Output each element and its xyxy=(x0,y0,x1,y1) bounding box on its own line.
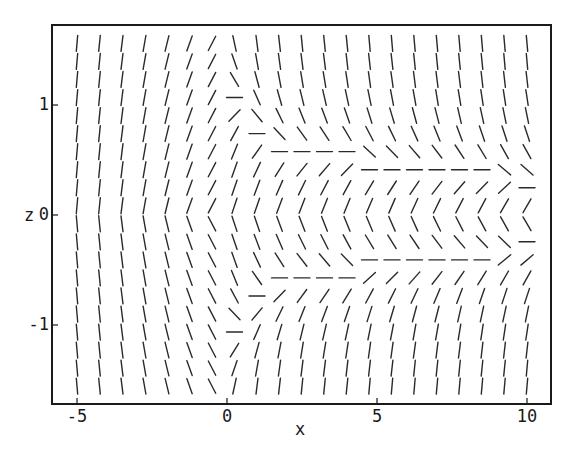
director-segment xyxy=(410,235,419,248)
director-segment xyxy=(391,378,392,394)
director-segment xyxy=(143,108,146,124)
director-segment xyxy=(187,144,192,159)
director-segment xyxy=(481,378,482,394)
director-segment xyxy=(479,126,484,141)
director-segment xyxy=(121,54,123,70)
director-segment xyxy=(121,324,123,340)
x-tick-label: 5 xyxy=(372,408,382,425)
director-segment xyxy=(322,108,328,123)
director-segment xyxy=(208,253,215,267)
director-segment xyxy=(165,162,169,178)
director-segment xyxy=(525,108,528,124)
director-segment xyxy=(343,181,351,195)
director-segment xyxy=(523,271,531,285)
director-segment xyxy=(523,145,531,159)
director-segment xyxy=(255,342,259,357)
director-segment xyxy=(341,164,352,175)
director-segment xyxy=(526,342,528,358)
director-segment xyxy=(187,54,192,69)
director-segment xyxy=(345,324,348,340)
director-segment xyxy=(143,324,146,340)
director-segment xyxy=(364,273,376,284)
director-segment xyxy=(498,165,510,175)
director-segment xyxy=(254,253,261,268)
director-segment xyxy=(165,342,169,358)
director-segment xyxy=(143,36,146,52)
director-segment xyxy=(319,254,329,266)
director-segment xyxy=(503,108,506,124)
director-segment xyxy=(99,360,101,376)
director-segment xyxy=(436,35,437,51)
director-segments xyxy=(76,35,535,394)
director-segment xyxy=(232,361,237,376)
director-segment xyxy=(391,360,393,376)
director-segment xyxy=(208,199,215,213)
director-segment xyxy=(502,126,507,141)
director-segment xyxy=(504,342,506,358)
director-segment xyxy=(99,35,101,51)
director-segment xyxy=(255,72,259,87)
director-segment xyxy=(277,198,283,213)
y-tick-label: 0 xyxy=(39,206,49,223)
director-segment xyxy=(232,180,237,195)
director-segment xyxy=(99,162,101,178)
director-segment xyxy=(346,72,348,88)
director-segment xyxy=(76,360,77,376)
director-segment xyxy=(165,216,169,232)
director-segment xyxy=(434,126,440,141)
director-segment xyxy=(389,126,396,140)
director-segment xyxy=(455,271,464,284)
director-segment xyxy=(346,378,348,394)
director-segment xyxy=(165,90,169,106)
director-segment xyxy=(458,108,462,124)
director-segment xyxy=(76,144,77,160)
director-segment xyxy=(391,90,394,106)
director-segment xyxy=(187,180,192,195)
director-segment xyxy=(321,235,328,249)
director-segment xyxy=(254,90,260,105)
director-segment xyxy=(521,164,533,175)
director-segment xyxy=(76,270,77,286)
director-segment xyxy=(165,144,169,160)
director-segment xyxy=(121,342,123,358)
director-segment xyxy=(256,54,259,70)
director-segment xyxy=(143,72,146,88)
director-segment xyxy=(478,271,486,285)
director-segment xyxy=(297,127,306,140)
director-segment xyxy=(343,127,351,141)
director-segment xyxy=(256,378,258,394)
director-segment xyxy=(389,198,395,213)
director-segment xyxy=(143,234,146,250)
director-segment xyxy=(504,72,506,88)
director-segment xyxy=(503,90,505,106)
director-segment xyxy=(187,343,192,358)
director-segment xyxy=(121,126,123,142)
director-segment xyxy=(391,72,393,88)
director-segment xyxy=(457,126,463,141)
director-segment xyxy=(165,270,169,286)
director-segment xyxy=(187,379,192,394)
x-tick-label: 0 xyxy=(222,408,232,425)
director-segment xyxy=(143,126,146,142)
director-segment xyxy=(301,360,303,376)
director-segment xyxy=(323,324,327,340)
director-segment xyxy=(502,288,507,303)
director-segment xyxy=(99,126,101,142)
director-segment xyxy=(143,162,146,178)
director-segment xyxy=(521,255,533,265)
director-segment xyxy=(297,163,307,176)
director-segment xyxy=(99,72,101,88)
director-segment xyxy=(121,198,123,214)
director-segment xyxy=(165,360,169,376)
director-segment xyxy=(411,217,418,232)
director-segment xyxy=(187,126,192,141)
director-segment xyxy=(301,54,303,70)
director-segment xyxy=(322,198,328,213)
director-segment xyxy=(455,145,464,158)
director-segment xyxy=(99,252,101,268)
director-segment xyxy=(99,180,101,196)
plot-frame xyxy=(52,25,551,404)
director-segment xyxy=(99,90,101,106)
director-segment xyxy=(412,108,416,124)
director-segment xyxy=(436,90,439,106)
